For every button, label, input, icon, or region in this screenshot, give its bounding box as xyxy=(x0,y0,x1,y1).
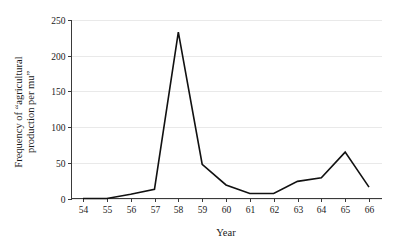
chart-figure: 050100150200250 545556575859606162636465… xyxy=(0,0,396,244)
y-tick-label-0: 0 xyxy=(61,195,66,205)
x-tick-label-62: 62 xyxy=(270,205,280,215)
x-tick-label-60: 60 xyxy=(222,205,232,215)
x-tick-label-58: 58 xyxy=(174,205,184,215)
x-tick-label-57: 57 xyxy=(151,205,161,215)
y-axis-title-line-2: production per mu” xyxy=(25,71,36,154)
y-tick-label-200: 200 xyxy=(51,52,66,62)
y-tick-label-150: 150 xyxy=(51,87,66,97)
x-tick-label-54: 54 xyxy=(79,205,89,215)
x-axis-title: Year xyxy=(216,227,236,238)
y-axis-title-line-1: Frequency of “agricultural xyxy=(13,56,24,167)
x-tick-label-55: 55 xyxy=(103,205,113,215)
x-tick-label-56: 56 xyxy=(127,205,137,215)
y-tick-label-100: 100 xyxy=(51,123,66,133)
x-tick-label-61: 61 xyxy=(246,205,256,215)
line-chart: 050100150200250 545556575859606162636465… xyxy=(0,0,396,244)
x-tick-label-63: 63 xyxy=(294,205,304,215)
y-tick-label-50: 50 xyxy=(56,159,66,169)
y-tick-label-250: 250 xyxy=(51,16,66,26)
x-tick-label-66: 66 xyxy=(365,205,375,215)
x-tick-label-65: 65 xyxy=(341,205,351,215)
x-tick-label-59: 59 xyxy=(198,205,208,215)
x-tick-label-64: 64 xyxy=(317,205,327,215)
